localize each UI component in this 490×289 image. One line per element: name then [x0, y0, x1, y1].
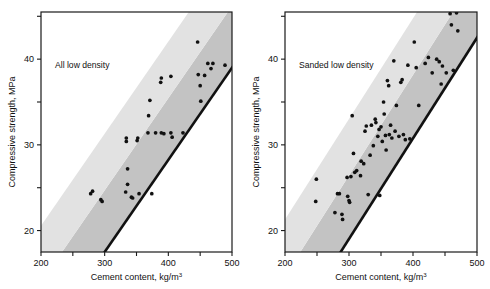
- y-axis-title: Compressive strength, MPa: [7, 76, 17, 187]
- data-point: [223, 63, 227, 67]
- figure-container: 200300400500203040Cement content, kg/m3C…: [0, 0, 490, 289]
- data-point: [314, 200, 318, 204]
- data-point: [444, 71, 448, 75]
- data-point: [402, 133, 406, 137]
- data-point: [209, 67, 213, 71]
- y-tick-label: 40: [24, 54, 34, 64]
- data-point: [346, 194, 350, 198]
- y-axis-title: Compressive strength, MPa: [251, 76, 261, 187]
- data-point: [198, 84, 202, 88]
- data-point: [206, 62, 210, 66]
- data-point: [181, 131, 185, 135]
- data-point: [154, 131, 158, 135]
- panel-title: All low density: [55, 60, 110, 70]
- data-point: [387, 84, 391, 88]
- panel-left: 200300400500203040Cement content, kg/m3C…: [7, 0, 245, 289]
- data-point: [333, 211, 337, 215]
- data-point: [441, 64, 445, 68]
- data-point: [430, 71, 434, 75]
- data-point: [211, 62, 215, 66]
- data-point: [124, 190, 128, 194]
- data-point: [146, 131, 150, 135]
- data-point: [126, 182, 130, 186]
- x-axis-title-superscript: 3: [179, 271, 183, 278]
- data-point: [374, 121, 378, 125]
- x-tick-label: 200: [277, 258, 292, 268]
- x-axis-title: Cement content, kg/m3: [91, 271, 183, 282]
- y-tick-label: 20: [24, 226, 34, 236]
- data-point: [159, 80, 163, 84]
- data-point: [376, 134, 380, 138]
- data-point: [162, 132, 166, 136]
- data-point: [355, 169, 359, 173]
- y-tick-label: 30: [268, 140, 278, 150]
- data-point: [350, 114, 354, 118]
- data-point: [384, 134, 388, 138]
- data-point: [382, 100, 386, 104]
- data-point: [414, 66, 418, 70]
- data-point: [408, 137, 412, 141]
- data-point: [196, 73, 200, 77]
- panel-right: 200300400500203040Cement content, kg/m3C…: [251, 0, 490, 289]
- data-point: [136, 136, 140, 140]
- data-point: [159, 76, 163, 80]
- data-point: [196, 40, 200, 44]
- x-tick-label: 300: [97, 258, 112, 268]
- data-point: [379, 125, 383, 129]
- data-point: [368, 153, 372, 157]
- x-tick-label: 500: [224, 258, 239, 268]
- data-point: [131, 196, 135, 200]
- data-point: [382, 112, 386, 116]
- data-point: [370, 123, 374, 127]
- x-tick-label: 500: [469, 258, 484, 268]
- data-point: [362, 162, 366, 166]
- data-point: [384, 148, 388, 152]
- data-point: [126, 167, 130, 171]
- data-point: [387, 133, 391, 137]
- y-tick-label: 30: [24, 140, 34, 150]
- data-point: [437, 60, 441, 64]
- x-axis-title: Cement content, kg/m3: [335, 271, 427, 282]
- x-tick-label: 400: [161, 258, 176, 268]
- data-point: [338, 192, 342, 196]
- data-point: [341, 218, 345, 222]
- data-point: [150, 192, 154, 196]
- data-point: [124, 140, 128, 144]
- panel-title: Sanded low density: [299, 60, 374, 70]
- data-point: [371, 144, 375, 148]
- y-tick-label: 20: [268, 226, 278, 236]
- data-point: [395, 104, 399, 108]
- data-point: [345, 176, 349, 180]
- data-point: [148, 98, 152, 102]
- data-point: [364, 124, 368, 128]
- plot-area-left: [28, 0, 244, 289]
- data-point: [203, 74, 207, 78]
- y-tick-label: 40: [268, 54, 278, 64]
- data-point: [169, 74, 173, 78]
- data-point: [380, 140, 384, 144]
- data-point: [390, 136, 394, 140]
- data-point: [100, 200, 104, 204]
- data-point: [315, 177, 319, 181]
- data-point: [397, 134, 401, 138]
- data-point: [386, 79, 390, 83]
- data-point: [366, 193, 370, 197]
- two-panel-scatter-figure: 200300400500203040Cement content, kg/m3C…: [0, 0, 490, 289]
- data-point: [170, 135, 174, 139]
- data-point: [91, 189, 95, 193]
- data-point: [400, 78, 404, 82]
- x-tick-label: 200: [33, 258, 48, 268]
- data-point: [412, 40, 416, 44]
- data-point: [169, 131, 173, 135]
- data-point: [403, 138, 407, 142]
- data-point: [406, 63, 410, 67]
- data-point: [427, 56, 431, 60]
- x-tick-label: 300: [341, 258, 356, 268]
- data-point: [137, 192, 141, 196]
- data-point: [450, 23, 454, 27]
- data-point: [392, 59, 396, 63]
- data-point: [439, 82, 443, 86]
- data-point: [349, 175, 353, 179]
- data-point: [423, 62, 427, 66]
- data-point: [124, 136, 128, 140]
